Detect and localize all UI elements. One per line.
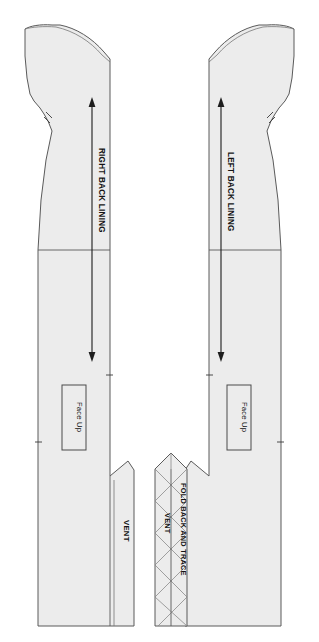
left-back-lining-outline [185,25,294,626]
right-face-up-label: Face Up [75,402,84,432]
piece-center-vent[interactable]: FOLD BACK AND TRACE VENT [155,453,188,626]
piece-left-back-lining[interactable]: LEFT BACK LINING Face Up [185,25,294,626]
left-face-up-label: Face Up [240,402,249,432]
center-vent-vent-label: VENT [163,513,172,534]
right-back-lining-outline [25,25,134,626]
left-grainline-label: LEFT BACK LINING [226,152,235,232]
right-vent-label: VENT [122,520,131,542]
right-grainline-label: RIGHT BACK LINING [97,148,106,233]
piece-right-back-lining[interactable]: RIGHT BACK LINING Face Up VENT [25,25,134,626]
center-vent-fold-label: FOLD BACK AND TRACE [179,483,188,576]
pattern-sheet: RIGHT BACK LINING Face Up VENT LEFT BACK… [0,0,319,642]
pattern-canvas: RIGHT BACK LINING Face Up VENT LEFT BACK… [0,0,319,642]
